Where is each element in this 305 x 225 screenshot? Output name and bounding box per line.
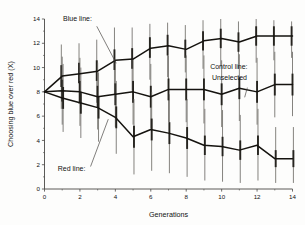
y-tick-label: 6 <box>36 112 40 119</box>
chart-canvas: 0246810121402468101214 Blue line:Red lin… <box>0 0 305 225</box>
y-tick-label: 2 <box>36 161 40 168</box>
annotation-control-line-2: Unselected <box>212 74 247 81</box>
x-tick-label: 4 <box>114 193 118 200</box>
x-tick-label: 0 <box>43 193 47 200</box>
x-tick-label: 12 <box>254 193 261 200</box>
x-tick-label: 10 <box>218 193 225 200</box>
x-axis-title: Generations <box>149 210 189 219</box>
annotation-leader-red-line <box>91 119 109 166</box>
y-tick-label: 14 <box>33 15 40 22</box>
y-tick-label: 10 <box>33 64 40 71</box>
x-tick-label: 8 <box>184 193 188 200</box>
x-tick-label: 2 <box>78 193 82 200</box>
annotation-blue-line: Blue line: <box>63 15 92 22</box>
x-tick-label: 6 <box>149 193 153 200</box>
y-tick-label: 8 <box>36 88 40 95</box>
x-tick-label: 14 <box>289 193 296 200</box>
annotation-control-line: Control line: <box>210 63 247 70</box>
y-tick-label: 12 <box>33 39 40 46</box>
y-tick-label: 0 <box>36 185 40 192</box>
y-tick-label: 4 <box>36 137 40 144</box>
annotation-red-line: Red line: <box>58 165 86 172</box>
figure-container: 0246810121402468101214 Blue line:Red lin… <box>0 0 305 225</box>
y-axis-title: Choosing blue over red (X) <box>6 61 15 147</box>
annotation-leader-blue-line <box>97 26 116 63</box>
errorbars-layer <box>61 19 293 183</box>
